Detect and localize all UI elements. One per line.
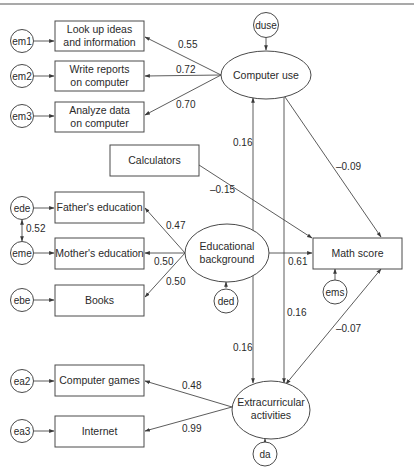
coef-ea-math: –0.07 bbox=[336, 323, 361, 334]
coef-cu-ea-path: 0.16 bbox=[287, 307, 307, 318]
error-em1: em1 bbox=[11, 30, 34, 53]
edge-cu-write bbox=[145, 75, 221, 76]
coef-eb-ea-cov: 0.16 bbox=[233, 342, 253, 353]
svg-text:and information: and information bbox=[63, 36, 136, 48]
svg-text:eme: eme bbox=[12, 248, 32, 259]
svg-text:em2: em2 bbox=[12, 71, 32, 82]
latent-extracurricular-activities: Extracurricular activities bbox=[232, 381, 310, 439]
coef-ea-games: 0.48 bbox=[182, 380, 202, 391]
svg-text:Computer use: Computer use bbox=[233, 69, 299, 81]
svg-text:duse: duse bbox=[255, 20, 277, 31]
box-look-up-ideas: Look up ideas and information bbox=[55, 21, 144, 51]
disturbance-duse: duse bbox=[254, 13, 279, 38]
box-internet: Internet bbox=[55, 416, 144, 447]
svg-text:ede: ede bbox=[14, 203, 31, 214]
svg-text:Write reports: Write reports bbox=[70, 63, 130, 75]
latent-computer-use: Computer use bbox=[221, 51, 311, 99]
svg-text:Look up ideas: Look up ideas bbox=[67, 23, 132, 35]
svg-text:Math score: Math score bbox=[332, 247, 384, 259]
coef-calc-math: –0.15 bbox=[210, 184, 235, 195]
svg-text:Mother's education: Mother's education bbox=[55, 247, 144, 259]
box-fathers-education: Father's education bbox=[55, 192, 144, 223]
error-ems: ems bbox=[323, 280, 347, 304]
svg-text:ebe: ebe bbox=[14, 295, 31, 306]
coef-eb-father: 0.47 bbox=[166, 220, 186, 231]
svg-text:activities: activities bbox=[251, 409, 291, 421]
svg-text:da: da bbox=[259, 449, 271, 460]
coef-cu-lookup: 0.55 bbox=[178, 39, 198, 50]
svg-text:Computer games: Computer games bbox=[59, 374, 140, 386]
box-math-score: Math score bbox=[313, 238, 402, 269]
coef-cu-math: –0.09 bbox=[336, 161, 361, 172]
coef-ea-internet: 0.99 bbox=[182, 423, 202, 434]
svg-text:em1: em1 bbox=[12, 36, 32, 47]
edge-cu-math bbox=[285, 97, 381, 237]
svg-text:on computer: on computer bbox=[70, 117, 129, 129]
sem-path-diagram: em1 Look up ideas and information em2 Wr… bbox=[0, 0, 414, 475]
svg-text:Analyze data: Analyze data bbox=[69, 104, 130, 116]
error-em3: em3 bbox=[11, 105, 34, 128]
coef-cu-write: 0.72 bbox=[176, 64, 196, 75]
svg-text:em3: em3 bbox=[12, 111, 32, 122]
box-analyze-data: Analyze data on computer bbox=[55, 102, 144, 132]
coef-eb-math: 0.61 bbox=[288, 256, 308, 267]
box-books: Books bbox=[55, 285, 144, 316]
svg-text:ems: ems bbox=[326, 287, 345, 298]
coef-cu-ea-cov: 0.16 bbox=[233, 137, 253, 148]
svg-text:ded: ded bbox=[218, 296, 235, 307]
error-ea3: ea3 bbox=[11, 420, 34, 443]
latent-educational-background: Educational background bbox=[185, 224, 269, 282]
coef-eb-mother: 0.50 bbox=[154, 256, 174, 267]
error-ea2: ea2 bbox=[11, 370, 34, 393]
disturbance-da: da bbox=[253, 442, 277, 466]
svg-text:Educational: Educational bbox=[200, 240, 255, 252]
disturbance-ded: ded bbox=[214, 289, 238, 313]
svg-text:ea2: ea2 bbox=[14, 376, 31, 387]
svg-text:Calculators: Calculators bbox=[128, 154, 181, 166]
error-ebe: ebe bbox=[11, 289, 34, 312]
svg-text:Internet: Internet bbox=[82, 425, 118, 437]
box-write-reports: Write reports on computer bbox=[55, 61, 144, 91]
svg-text:ea3: ea3 bbox=[14, 426, 31, 437]
box-mothers-education: Mother's education bbox=[55, 238, 144, 269]
svg-text:Father's education: Father's education bbox=[56, 201, 142, 213]
error-em2: em2 bbox=[11, 65, 34, 88]
coef-ede-eme-cov: 0.52 bbox=[26, 223, 46, 234]
box-calculators: Calculators bbox=[110, 145, 199, 176]
svg-text:Books: Books bbox=[85, 294, 114, 306]
coef-cu-analyze: 0.70 bbox=[176, 99, 196, 110]
svg-text:background: background bbox=[200, 253, 255, 265]
svg-text:on computer: on computer bbox=[70, 76, 129, 88]
error-ede: ede bbox=[11, 197, 34, 220]
svg-text:Extracurricular: Extracurricular bbox=[237, 396, 305, 408]
coef-eb-books: 0.50 bbox=[166, 276, 186, 287]
error-eme: eme bbox=[11, 242, 34, 265]
box-computer-games: Computer games bbox=[55, 365, 144, 396]
